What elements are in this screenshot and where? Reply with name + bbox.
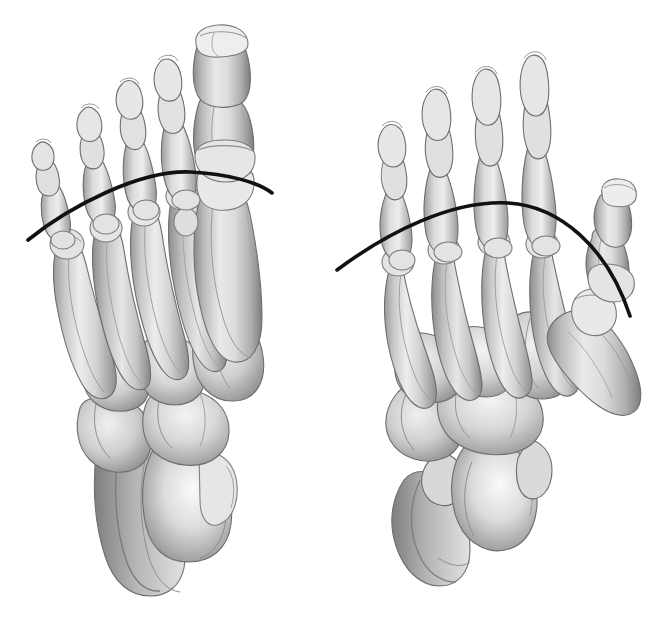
caption-row: A Human B Chimpanzee [0,584,653,630]
figure-canvas [0,0,653,630]
human-sesamoids [174,208,198,236]
foot-skeleton-comparison-illustration [0,0,653,630]
